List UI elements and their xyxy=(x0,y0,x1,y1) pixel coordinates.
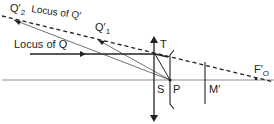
label-p: P xyxy=(173,84,180,95)
arrow-icon xyxy=(80,51,86,57)
optics-diagram: Q′2 Locus of Q′ Q′1 Locus of Q T S P M′ … xyxy=(0,0,274,124)
fo-sub: O xyxy=(263,69,269,78)
label-fo: F′O xyxy=(254,64,269,78)
fo-text: F′ xyxy=(254,63,263,75)
label-locus-q: Locus of Q xyxy=(14,39,67,50)
arrow-icon xyxy=(14,20,21,25)
point-fo xyxy=(255,78,258,81)
arrow-icon xyxy=(98,40,105,45)
ray-q2 xyxy=(14,20,170,80)
q2-sub: 2 xyxy=(21,8,25,17)
label-m-prime: M′ xyxy=(209,84,220,95)
label-t: T xyxy=(160,39,167,50)
point-p xyxy=(169,79,172,82)
q1-text: Q′ xyxy=(95,21,106,33)
label-q2: Q′2 xyxy=(10,3,25,17)
q1-sub: 1 xyxy=(106,27,110,36)
label-s: S xyxy=(157,84,164,95)
label-q1: Q′1 xyxy=(95,22,110,36)
q2-text: Q′ xyxy=(10,2,21,14)
ray-diagram-graphic xyxy=(0,0,274,124)
arrow-down-icon xyxy=(150,115,158,122)
arrow-up-icon xyxy=(150,36,158,43)
